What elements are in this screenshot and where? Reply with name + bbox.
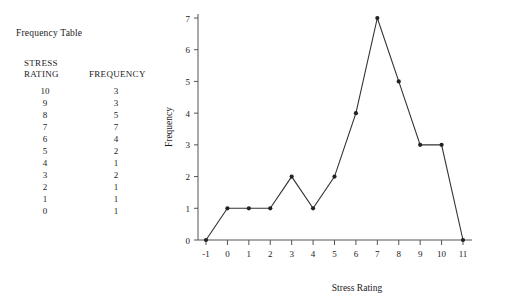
y-tick-label: 2 [186,172,191,182]
data-point [332,174,336,178]
chart-svg: 01234567 -101234567891011 Stress Rating … [0,0,506,305]
data-point [225,206,229,210]
figure-page: Frequency Table STRESS RATING FREQUENCY … [0,0,506,305]
y-tick-label: 3 [186,140,191,150]
x-tick-label: -1 [202,249,210,259]
y-tick-label: 0 [186,236,191,246]
y-tick-label: 7 [186,14,191,24]
data-point [268,206,272,210]
x-tick-label: 10 [437,249,447,259]
x-tick-label: 9 [418,249,423,259]
x-tick-label: 7 [375,249,380,259]
data-point [418,143,422,147]
x-tick-label: 2 [268,249,273,259]
x-axis-ticks: -101234567891011 [202,240,467,259]
y-tick-label: 1 [186,204,191,214]
x-axis-title: Stress Rating [332,283,383,293]
data-point [290,174,294,178]
data-point [439,143,443,147]
y-axis-ticks: 01234567 [186,14,199,246]
x-tick-label: 3 [289,249,294,259]
data-point [375,16,379,20]
y-tick-label: 5 [186,77,191,87]
x-tick-label: 5 [332,249,337,259]
x-tick-label: 0 [225,249,230,259]
x-tick-label: 11 [459,249,468,259]
data-point [397,79,401,83]
data-point [204,238,208,242]
x-tick-label: 6 [354,249,359,259]
line-chart: 01234567 -101234567891011 Stress Rating … [0,0,506,305]
x-tick-label: 8 [397,249,402,259]
chart-axes [198,14,472,240]
data-point [247,206,251,210]
x-tick-label: 1 [247,249,252,259]
series-polyline [206,18,463,240]
data-point [354,111,358,115]
data-point [461,238,465,242]
y-tick-label: 4 [186,109,191,119]
y-axis-title: Frequency [164,107,174,147]
data-point [311,206,315,210]
y-tick-label: 6 [186,45,191,55]
data-series [204,16,465,242]
x-tick-label: 4 [311,249,316,259]
